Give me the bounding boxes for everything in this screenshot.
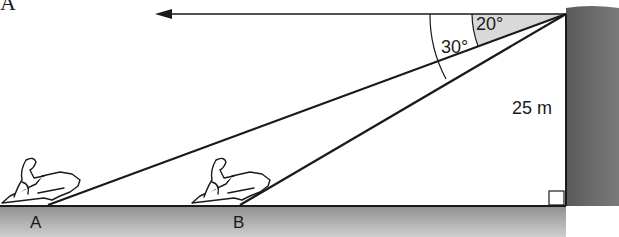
cliff-shape: [566, 6, 619, 206]
diagram-canvas: A 20° 30° 25 m A B: [0, 0, 619, 237]
diagram-drawing: [0, 0, 619, 237]
angle-20-label: 20°: [476, 15, 503, 33]
sightline-to-a: [48, 14, 566, 205]
right-angle-marker: [549, 191, 564, 205]
ground-band: [0, 206, 566, 237]
angle-30-label: 30°: [441, 38, 468, 56]
point-a-label: A: [30, 214, 41, 231]
point-b-label: B: [233, 214, 244, 231]
arrow-head-icon: [155, 9, 172, 19]
corner-label: A: [0, 0, 16, 14]
jet-ski-b-icon: [192, 158, 270, 203]
jet-ski-a-icon: [2, 158, 80, 203]
cliff-height-label: 25 m: [512, 99, 552, 117]
